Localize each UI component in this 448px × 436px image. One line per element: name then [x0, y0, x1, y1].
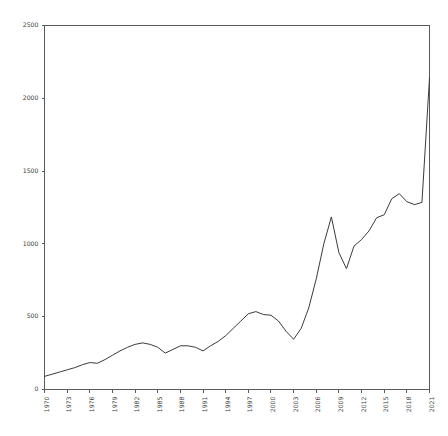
x-tick-label: 2003	[292, 396, 299, 412]
line-chart: 05001000150020002500 1970197319761979198…	[0, 0, 448, 436]
x-tick-label: 1985	[156, 396, 163, 412]
x-tick-label: 1988	[178, 396, 185, 412]
x-tick-label: 1973	[65, 396, 72, 412]
y-tick-label: 1500	[23, 167, 39, 174]
x-tick-label: 2015	[382, 396, 389, 412]
y-tick-label: 500	[27, 312, 39, 319]
x-tick-label: 1991	[201, 396, 208, 412]
y-tick-label: 0	[35, 385, 39, 392]
data-series-line	[45, 78, 430, 376]
x-tick-label: 1994	[224, 396, 231, 412]
x-tick-label: 2009	[337, 396, 344, 412]
x-tick-label: 2000	[269, 396, 276, 412]
x-tick-label: 2021	[428, 396, 435, 412]
x-axis-tick-labels: 1970197319761979198219851988199119941997…	[43, 396, 435, 412]
y-tick-label: 2000	[23, 94, 39, 101]
x-tick-label: 1976	[88, 396, 95, 412]
x-tick-label: 2012	[360, 396, 367, 412]
plot-frame	[45, 26, 430, 390]
x-tick-label: 1997	[246, 396, 253, 412]
plot-border	[45, 26, 430, 390]
x-tick-label: 1970	[43, 396, 50, 412]
x-tick-label: 2018	[405, 396, 412, 412]
x-tick-label: 1979	[111, 396, 118, 412]
y-tick-label: 2500	[23, 21, 39, 28]
y-tick-label: 1000	[23, 240, 39, 247]
y-axis-tick-labels: 05001000150020002500	[23, 21, 39, 392]
x-tick-label: 1982	[133, 396, 140, 412]
chart-canvas: 05001000150020002500 1970197319761979198…	[0, 0, 448, 436]
x-tick-label: 2006	[314, 396, 321, 412]
